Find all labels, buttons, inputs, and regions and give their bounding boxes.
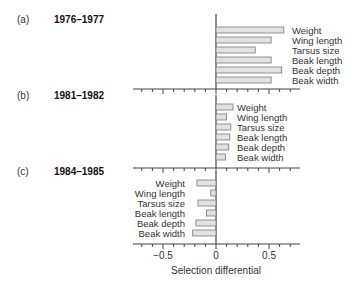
bar <box>206 210 216 216</box>
bar <box>216 104 233 110</box>
bar <box>216 134 230 140</box>
bar <box>216 144 229 150</box>
bar-label: Beak width <box>139 228 185 239</box>
x-tick-label: −0.5 <box>153 250 173 261</box>
bar <box>216 67 282 73</box>
bar <box>216 47 255 53</box>
bar <box>216 124 231 130</box>
x-tick-label: 0 <box>213 250 219 261</box>
bar <box>216 154 226 160</box>
bar <box>196 220 216 226</box>
bar <box>197 180 216 186</box>
bar <box>216 37 271 43</box>
bar <box>211 190 216 196</box>
bar <box>216 57 271 63</box>
bar <box>193 230 216 236</box>
bar-label: Beak width <box>237 152 283 163</box>
bar <box>198 200 216 206</box>
selection-differential-chart: WeightWing lengthTarsus sizeBeak lengthB… <box>0 0 354 291</box>
x-axis-title: Selection differential <box>171 265 261 276</box>
bar <box>216 114 227 120</box>
bar <box>216 77 271 83</box>
bar-label: Beak width <box>292 75 338 86</box>
x-tick-label: 0.5 <box>262 250 276 261</box>
bar <box>216 27 284 33</box>
